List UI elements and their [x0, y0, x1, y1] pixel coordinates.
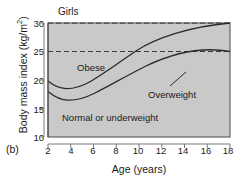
obese-region-label: Obese: [77, 62, 105, 73]
overweight-region-label: Overweight: [148, 89, 196, 100]
normal-region-label: Normal or underweight: [62, 112, 158, 123]
plot-area-svg: [0, 0, 246, 185]
bmi-chart-figure: Body mass index (kg/m2) (b) Girls 30 25 …: [0, 0, 246, 185]
